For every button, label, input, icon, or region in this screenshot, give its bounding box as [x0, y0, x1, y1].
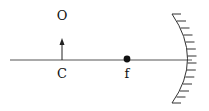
label-focal-point: f	[125, 66, 131, 81]
focal-point-dot	[124, 56, 131, 63]
label-center-of-curvature: C	[57, 66, 67, 81]
ray-diagram: O C f	[0, 0, 209, 111]
object-arrow	[60, 38, 65, 60]
concave-mirror	[172, 14, 197, 103]
label-object: O	[57, 8, 68, 23]
